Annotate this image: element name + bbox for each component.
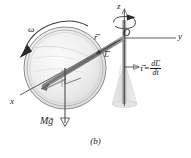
angular-velocity-label: ω [28,25,34,34]
weight-label: → Mg [40,116,53,126]
axis-label-x: x [10,97,14,106]
origin-label: O [123,28,130,38]
vector-arrow-icon: → [94,30,99,38]
figure-caption: (b) [0,136,191,146]
vector-arrow-icon: → [46,113,55,122]
position-vector-label: → r [94,33,98,42]
vector-arrow-icon: → [155,57,161,64]
torque-equation: → τ =→dLdt [140,60,161,77]
angular-momentum-label: → L [104,50,109,59]
vector-arrow-icon: → [140,61,144,69]
derivative-denominator: dt [150,68,160,77]
gyroscope-precession-figure: z y x O ω → r → L → Mg → τ =→dLdt (b) [0,0,191,158]
derivative-fraction: →dLdt [150,60,160,77]
vector-arrow-icon: → [104,47,110,55]
axis-label-y: y [178,32,182,41]
axis-label-z: z [117,2,121,11]
derivative-numerator: →dL [150,60,160,68]
